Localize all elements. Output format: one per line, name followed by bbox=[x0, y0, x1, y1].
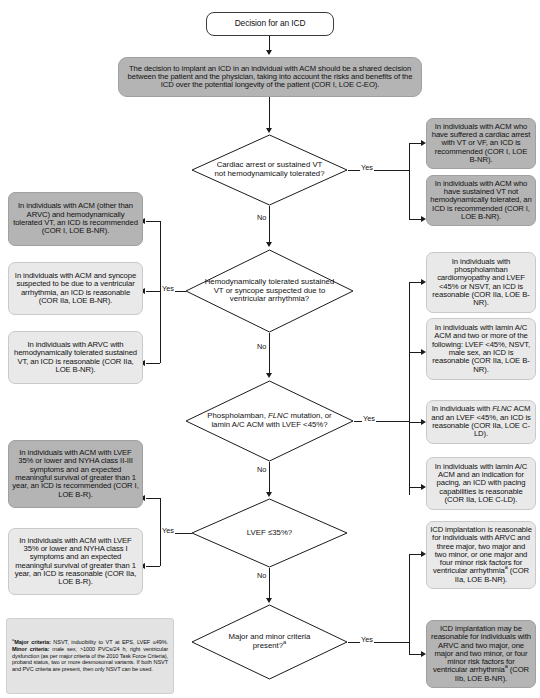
connector-d4-yes-split bbox=[160, 498, 161, 566]
decision-5-label: Major and minor criteria present?a bbox=[213, 633, 326, 650]
connector-d4-yes-a bbox=[146, 498, 160, 499]
outcome-lamin-two-or-more: In individuals with lamin A/C ACM and tw… bbox=[426, 318, 536, 380]
decision-genotype-lvef: Phospholamban, FLNC mutation, or lamin A… bbox=[185, 380, 354, 462]
label-d5-yes: Yes bbox=[360, 636, 374, 643]
outcome-arvc-iia-risk-factors-label: ICD implantation is reasonable for indiv… bbox=[427, 526, 535, 584]
connector-d2-yes-c bbox=[146, 363, 160, 364]
outcome-sustained-vt-not-tolerated-label: In individuals with ACM who have sustain… bbox=[427, 180, 535, 222]
label-d4-no: No bbox=[256, 572, 267, 579]
outcome-arvc-iia-risk-factors: ICD implantation is reasonable for indiv… bbox=[426, 521, 536, 589]
connector-d2-yes-split bbox=[160, 221, 161, 363]
label-d3-yes: Yes bbox=[362, 415, 376, 422]
decision-4-label: LVEF ≤35%? bbox=[213, 529, 326, 538]
outcome-acm-non-arvc-tolerated-vt-label: In individuals with ACM (other than ARVC… bbox=[9, 202, 142, 235]
decision-1-label: Cardiac arrest or sustained VT not hemod… bbox=[213, 161, 326, 178]
outcome-arvc-tolerated-sustained-vt-label: In individuals with ARVC with hemodynami… bbox=[9, 341, 142, 374]
outcome-lvef35-nyha1: In individuals with ACM with LVEF 35% or… bbox=[8, 528, 143, 595]
arrow-shared-to-d1 bbox=[266, 128, 272, 133]
footnote-criteria: aMajor criteria: NSVT, inducibility to V… bbox=[6, 618, 174, 694]
label-d4-yes: Yes bbox=[161, 527, 175, 534]
icd-decision-flowchart: Decision for an ICD The decision to impl… bbox=[0, 0, 540, 698]
outcome-cardiac-arrest-vt-vf: In individuals with ACM who have suffere… bbox=[426, 118, 536, 169]
outcome-acm-non-arvc-tolerated-vt: In individuals with ACM (other than ARVC… bbox=[8, 192, 143, 246]
outcome-cardiac-arrest-vt-vf-label: In individuals with ACM who have suffere… bbox=[427, 123, 535, 165]
outcome-phospholamban: In individuals with phospholamban cardio… bbox=[426, 252, 536, 313]
outcome-arvc-iib-risk-factors-label: ICD implantation may be reasonable for i… bbox=[427, 625, 535, 683]
outcome-lvef35-nyha1-label: In individuals with ACM with LVEF 35% or… bbox=[9, 537, 142, 587]
outcome-flnc-lvef-label: In individuals with FLNC ACM and an LVEF… bbox=[427, 405, 535, 438]
outcome-acm-syncope: In individuals with ACM and syncope susp… bbox=[8, 262, 143, 315]
decision-major-minor-criteria: Major and minor criteria present?a bbox=[191, 604, 348, 680]
connector-d1-yes-split bbox=[409, 143, 410, 219]
footnote-criteria-label: aMajor criteria: NSVT, inducibility to V… bbox=[7, 635, 173, 678]
label-d1-no: No bbox=[256, 214, 267, 221]
shared-decision-statement: The decision to implant an ICD in an ind… bbox=[118, 57, 422, 97]
decision-2-label: Hemodynamically tolerated sustained VT o… bbox=[200, 278, 339, 304]
connector-d4-no bbox=[269, 568, 270, 600]
outcome-sustained-vt-not-tolerated: In individuals with ACM who have sustain… bbox=[426, 175, 536, 226]
outcome-lamin-two-or-more-label: In individuals with lamin A/C ACM and tw… bbox=[427, 324, 535, 374]
arrow-d2-no bbox=[266, 373, 272, 378]
connector-d2-no bbox=[269, 333, 270, 375]
decision-tolerated-vt-syncope: Hemodynamically tolerated sustained VT o… bbox=[185, 249, 354, 333]
connector-d5-yes bbox=[348, 642, 409, 643]
start-node-decision-for-icd: Decision for an ICD bbox=[206, 12, 334, 36]
connector-d2-yes-a bbox=[146, 221, 160, 222]
shared-decision-label: The decision to implant an ICD in an ind… bbox=[119, 65, 421, 90]
connector-d1-no bbox=[269, 206, 270, 244]
decision-lvef-35: LVEF ≤35%? bbox=[191, 498, 348, 568]
outcome-lvef35-nyha2-3-label: In individuals with ACM with LVEF 35% or… bbox=[9, 449, 142, 499]
outcome-phospholamban-label: In individuals with phospholamban cardio… bbox=[427, 258, 535, 308]
decision-cardiac-arrest: Cardiac arrest or sustained VT not hemod… bbox=[191, 134, 348, 206]
connector-d3-yes-split bbox=[409, 282, 410, 495]
label-d2-yes: Yes bbox=[161, 285, 175, 292]
arrow-d3-no bbox=[266, 492, 272, 497]
arrow-title-to-shared bbox=[266, 50, 272, 55]
connector-shared-to-d1 bbox=[269, 97, 270, 130]
arrow-d4-no bbox=[266, 598, 272, 603]
outcome-lamin-pacing-label: In individuals with lamin A/C ACM and an… bbox=[427, 463, 535, 505]
connector-d5-yes-split bbox=[409, 554, 410, 654]
label-d3-no: No bbox=[256, 466, 267, 473]
label-d1-yes: Yes bbox=[360, 164, 374, 171]
arrow-d1-no bbox=[266, 242, 272, 247]
outcome-arvc-iib-risk-factors: ICD implantation may be reasonable for i… bbox=[426, 620, 536, 688]
connector-d2-yes-b bbox=[146, 291, 160, 292]
outcome-acm-syncope-label: In individuals with ACM and syncope susp… bbox=[9, 272, 142, 305]
outcome-lvef35-nyha2-3: In individuals with ACM with LVEF 35% or… bbox=[8, 440, 143, 508]
connector-d1-yes bbox=[348, 170, 409, 171]
label-d2-no: No bbox=[256, 343, 267, 350]
outcome-lamin-pacing: In individuals with lamin A/C ACM and an… bbox=[426, 457, 536, 510]
outcome-flnc-lvef: In individuals with FLNC ACM and an LVEF… bbox=[426, 400, 536, 444]
outcome-arvc-tolerated-sustained-vt: In individuals with ARVC with hemodynami… bbox=[8, 331, 143, 384]
connector-d3-no bbox=[269, 462, 270, 494]
decision-3-label: Phospholamban, FLNC mutation, or lamin A… bbox=[200, 412, 339, 429]
start-node-label: Decision for an ICD bbox=[207, 19, 333, 28]
connector-d4-yes-b bbox=[146, 566, 160, 567]
